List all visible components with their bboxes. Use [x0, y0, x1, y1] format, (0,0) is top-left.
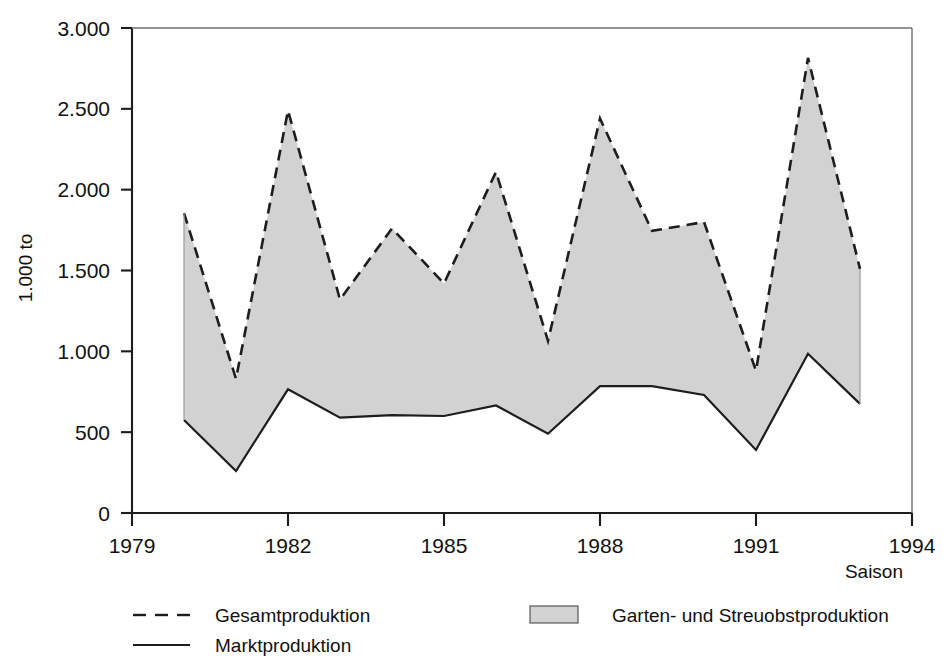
x-axis-title: Saison	[845, 561, 903, 582]
y-tick-label: 3.000	[57, 17, 110, 40]
y-tick-label: 500	[75, 421, 110, 444]
legend-entry-garten-streuobst: Garten- und Streuobstproduktion	[530, 605, 889, 626]
y-tick-label: 2.500	[57, 97, 110, 120]
x-tick-label: 1994	[889, 534, 936, 557]
legend-label-gesamtproduktion: Gesamtproduktion	[215, 605, 370, 626]
legend-label-garten-streuobst: Garten- und Streuobstproduktion	[612, 605, 889, 626]
y-tick-label: 1.000	[57, 340, 110, 363]
production-area-chart: 05001.0001.5002.0002.5003.000 1979198219…	[0, 0, 945, 662]
x-tick-label: 1985	[421, 534, 468, 557]
x-tick-label: 1982	[265, 534, 312, 557]
legend-label-marktproduktion: Marktproduktion	[215, 635, 351, 656]
y-tick-label: 2.000	[57, 178, 110, 201]
y-tick-label: 0	[98, 502, 110, 525]
chart-container: 05001.0001.5002.0002.5003.000 1979198219…	[0, 0, 945, 662]
legend: Gesamtproduktion Marktproduktion Garten-…	[133, 605, 889, 656]
x-axis-tick-labels: 197919821985198819911994	[109, 534, 936, 557]
x-axis-ticks	[132, 513, 912, 526]
y-axis-ticks	[121, 28, 132, 513]
y-axis-tick-labels: 05001.0001.5002.0002.5003.000	[57, 17, 110, 525]
legend-entry-gesamtproduktion: Gesamtproduktion	[133, 605, 370, 626]
y-axis-title: 1.000 to	[15, 234, 36, 303]
legend-entry-marktproduktion: Marktproduktion	[133, 635, 351, 656]
y-tick-label: 1.500	[57, 259, 110, 282]
x-tick-label: 1988	[577, 534, 624, 557]
x-tick-label: 1991	[733, 534, 780, 557]
gray-box-swatch-icon	[530, 606, 578, 623]
x-tick-label: 1979	[109, 534, 156, 557]
